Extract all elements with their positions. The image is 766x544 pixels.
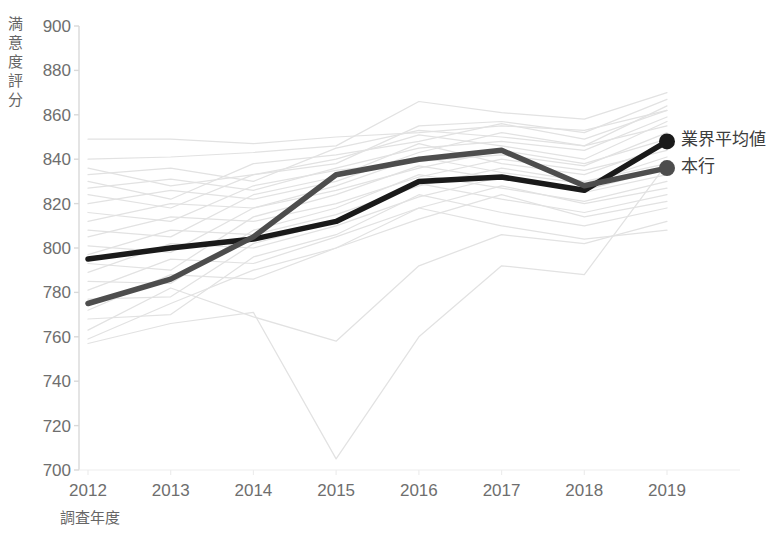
background-series-line bbox=[88, 93, 667, 160]
satisfaction-line-chart: 満 意 度 評 分 900 880 860 840 820 800 780 76… bbox=[0, 0, 766, 544]
legend-item-industry-average[interactable]: 業界平均値 bbox=[681, 130, 766, 150]
background-series-line bbox=[88, 195, 667, 319]
series-end-marker-our-bank bbox=[659, 160, 675, 176]
background-series-line bbox=[88, 208, 667, 339]
legend-item-our-bank[interactable]: 本行 bbox=[681, 157, 715, 177]
series-end-markers bbox=[659, 133, 675, 176]
plot-area bbox=[0, 0, 766, 544]
background-series-line bbox=[88, 164, 667, 255]
background-series-line bbox=[88, 99, 667, 186]
series-end-marker-industry-average bbox=[659, 133, 675, 149]
